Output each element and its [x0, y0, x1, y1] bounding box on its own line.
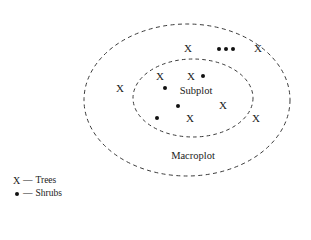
macroplot-label: Macroplot: [171, 150, 215, 161]
tree-marker: X: [116, 83, 124, 94]
subplot-label: Subplot: [180, 85, 213, 96]
tree-marker: X: [184, 43, 192, 54]
tree-marker: X: [254, 43, 262, 54]
shrub-marker: [155, 116, 159, 120]
shrub-marker: [163, 86, 167, 90]
legend-label-shrubs: Shrubs: [36, 187, 62, 200]
tree-marker: X: [187, 71, 195, 82]
legend-item-shrubs: — Shrubs: [12, 187, 62, 200]
shrub-marker: [224, 47, 228, 51]
legend: X — Trees — Shrubs: [12, 174, 62, 200]
tree-marker: X: [219, 100, 227, 111]
shrub-marker: [217, 47, 221, 51]
shrub-marker: [176, 104, 180, 108]
legend-label-trees: Trees: [36, 174, 57, 187]
tree-marker: X: [156, 71, 164, 82]
shrub-marker: [201, 74, 205, 78]
legend-dash: —: [21, 174, 36, 187]
legend-item-trees: X — Trees: [12, 174, 62, 187]
shrub-marker: [231, 47, 235, 51]
shrub-symbol-icon: [12, 192, 21, 196]
tree-marker: X: [186, 113, 194, 124]
tree-marker: X: [252, 113, 260, 124]
legend-dash: —: [21, 187, 36, 200]
tree-symbol-icon: X: [12, 174, 21, 187]
